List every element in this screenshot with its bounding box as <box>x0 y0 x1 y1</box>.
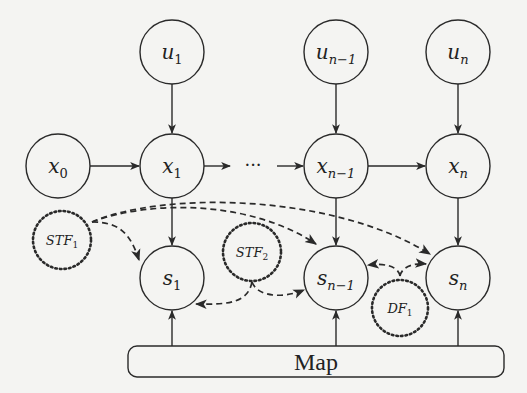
edge-df1-sn1 <box>368 264 400 276</box>
label-u1: u1 <box>161 40 182 67</box>
label-stf2: STF2 <box>236 245 268 262</box>
label-xn1: xn−1 <box>317 154 356 181</box>
label-s1: s1 <box>163 266 182 293</box>
diagram-canvas: ··· u1 un−1 un x0 x1 xn−1 xn s1 sn−1 sn … <box>0 0 527 393</box>
ellipsis: ··· <box>244 154 261 175</box>
label-x0: x0 <box>48 154 68 181</box>
label-un1: un−1 <box>316 40 356 67</box>
edge-stf2-sn1 <box>252 282 304 295</box>
edge-stf2-s1 <box>196 282 252 304</box>
edge-df1-sn <box>400 264 426 276</box>
graphical-model: ··· u1 un−1 un x0 x1 xn−1 xn s1 sn−1 sn … <box>0 0 527 393</box>
label-sn1: sn−1 <box>317 266 355 293</box>
label-un: un <box>447 40 468 67</box>
label-xn: xn <box>448 154 468 181</box>
map-label: Map <box>294 349 338 375</box>
label-x1: x1 <box>162 154 182 181</box>
label-stf1: STF1 <box>46 233 78 250</box>
edge-stf1-s1 <box>92 222 139 260</box>
label-sn: sn <box>449 266 468 293</box>
edge-stf1-sn1 <box>92 208 316 244</box>
label-df1: DF1 <box>386 301 412 318</box>
